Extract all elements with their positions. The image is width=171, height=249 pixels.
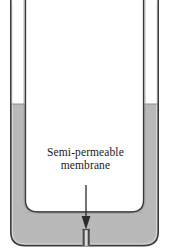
vessel-interior <box>26 0 143 211</box>
membrane-edge-left <box>83 230 85 246</box>
membrane-label-line1: Semi-permeable <box>0 146 171 159</box>
membrane-edge-right <box>88 230 90 246</box>
membrane-label-line2: membrane <box>0 159 171 172</box>
osmosis-diagram: o Semi-permeable membrane <box>0 0 171 249</box>
u-tube-svg <box>0 0 171 249</box>
